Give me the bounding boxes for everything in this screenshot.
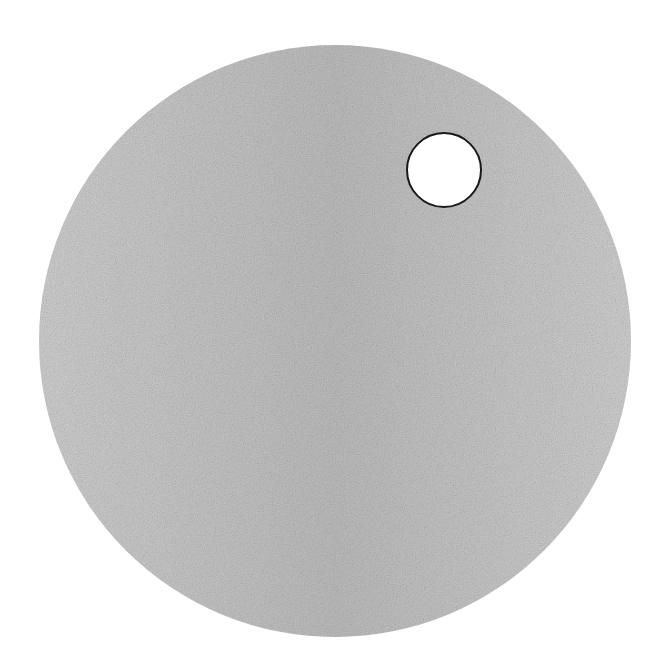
scene-canvas [0, 0, 666, 670]
gray-disc [39, 45, 631, 637]
white-hole-circle [407, 133, 481, 207]
